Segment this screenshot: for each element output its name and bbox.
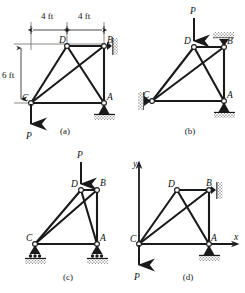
panel-a: 4 ft 4 ft 6 ft D B C A: [2, 11, 118, 141]
support-a-rocker-c: [87, 245, 108, 264]
axis-label-x: x: [233, 232, 239, 242]
node-label-d-d: D: [167, 179, 175, 189]
node-label-d-c: D: [70, 179, 78, 189]
joint-d-b: [192, 45, 197, 50]
node-label-a-c: A: [99, 233, 106, 243]
node-label-b-c: B: [100, 178, 106, 188]
support-b-roller-wall-d: [211, 182, 223, 199]
joint-b: [102, 44, 107, 49]
axis-label-y: y: [132, 159, 138, 169]
support-a-pin-ground-b: [214, 102, 235, 118]
member-c-d-d: [139, 190, 177, 244]
dim-label-6ft: 6 ft: [2, 70, 15, 80]
support-c-rocker-c: [25, 245, 46, 264]
load-label-p-b: P: [189, 6, 196, 16]
node-label-a: A: [106, 92, 113, 102]
dim-label-4ft-left: 4 ft: [41, 11, 54, 21]
member-c-b-d: [139, 190, 209, 244]
node-label-c: C: [22, 93, 29, 103]
joint-b-c: [95, 188, 100, 193]
load-label-p: P: [25, 131, 32, 141]
member-d-a-d: [177, 190, 209, 244]
node-label-c-d: C: [130, 234, 137, 244]
panel-d: y x D B C A: [130, 159, 240, 282]
truss-figure: 4 ft 4 ft 6 ft D B C A: [0, 0, 245, 293]
caption-panel-c: (c): [48, 272, 88, 282]
node-label-a-d: A: [210, 233, 217, 243]
support-a-pin-ground-d: [199, 245, 220, 261]
joint-d-c: [79, 188, 84, 193]
figure-canvas: 4 ft 4 ft 6 ft D B C A: [0, 0, 245, 293]
member-c-b: [31, 46, 104, 103]
member-c-d-c: [35, 190, 81, 244]
load-label-p-d: P: [133, 272, 140, 282]
joint-b-d: [207, 188, 212, 193]
joint-d-d: [175, 188, 180, 193]
member-c-b-c: [35, 190, 97, 244]
panel-c-members: [35, 190, 97, 244]
load-p-at-c: P: [25, 104, 32, 141]
panel-d-members: [139, 190, 209, 244]
load-label-p-c: P: [76, 150, 83, 160]
panel-b: P D B C A: [138, 6, 235, 118]
caption-panel-b: (b): [170, 126, 210, 136]
caption-panel-a: (a): [45, 126, 85, 136]
axis-y-d: y: [132, 159, 142, 244]
panel-c: P D B C A: [25, 150, 108, 264]
support-a-pin-ground: [94, 104, 115, 120]
node-label-a-b: A: [226, 90, 233, 100]
node-label-d: D: [58, 35, 66, 45]
panel-a-members: [31, 46, 104, 103]
caption-panel-d: (d): [168, 272, 208, 282]
load-p-at-c-d: P: [133, 245, 140, 282]
member-d-a: [67, 46, 104, 103]
panel-b-members: [152, 47, 224, 101]
node-label-c-c: C: [26, 233, 33, 243]
dim-label-4ft-right: 4 ft: [78, 11, 91, 21]
member-d-a-b: [194, 47, 224, 101]
node-label-d-b: D: [183, 36, 191, 46]
member-c-d: [31, 46, 67, 103]
